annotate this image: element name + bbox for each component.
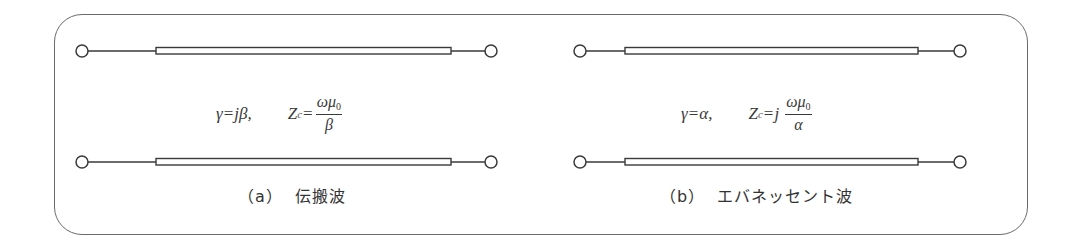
terminal-icon (485, 156, 497, 168)
panel-a-top-conductor (76, 45, 497, 57)
conductor-strip (625, 48, 918, 55)
impedance-fraction: ωμ0 β (316, 94, 342, 133)
fraction-numerator: ωμ (786, 93, 805, 110)
equals-sign: = (303, 104, 313, 124)
terminal-icon (76, 156, 88, 168)
panel-b-bottom-conductor (574, 156, 966, 168)
conductor-strip (156, 159, 451, 166)
gamma-symbol: γ (681, 104, 688, 124)
equals-sign: = (224, 104, 234, 124)
panel-b-formula: γ = α, Zc = j ωμ0 α (681, 94, 812, 133)
terminal-icon (954, 156, 966, 168)
impedance-symbol: Z (288, 104, 297, 124)
transmission-line-diagram (0, 0, 1078, 246)
fraction-denominator: β (325, 115, 333, 133)
impedance-subscript: c (758, 108, 763, 120)
gamma-symbol: γ (216, 104, 223, 124)
equals-sign: = (689, 104, 699, 124)
impedance-fraction: ωμ0 α (785, 94, 811, 133)
terminal-icon (485, 45, 497, 57)
terminal-icon (574, 156, 586, 168)
impedance-subscript: c (297, 108, 302, 120)
panel-a-caption: （a） 伝搬波 (238, 183, 346, 207)
terminal-icon (574, 45, 586, 57)
caption-label: （a） (238, 187, 283, 206)
caption-text: エバネッセント波 (717, 187, 853, 206)
terminal-icon (954, 45, 966, 57)
numerator-subscript: 0 (336, 101, 341, 112)
caption-text: 伝搬波 (295, 187, 346, 206)
equals-sign: = (764, 104, 774, 124)
panel-b-top-conductor (574, 45, 966, 57)
fraction-denominator: α (794, 115, 802, 133)
gamma-value: α, (699, 104, 712, 124)
numerator-subscript: 0 (806, 101, 811, 112)
gamma-value: jβ, (234, 104, 251, 124)
conductor-strip (156, 48, 451, 55)
terminal-icon (76, 45, 88, 57)
impedance-symbol: Z (748, 104, 757, 124)
impedance-prefix: j (774, 104, 779, 124)
conductor-strip (625, 159, 918, 166)
panel-a-bottom-conductor (76, 156, 497, 168)
fraction-numerator: ωμ (317, 93, 336, 110)
caption-label: （b） (660, 187, 705, 206)
panel-a-formula: γ = jβ, Zc = ωμ0 β (216, 94, 342, 133)
panel-b-caption: （b） エバネッセント波 (660, 183, 853, 207)
